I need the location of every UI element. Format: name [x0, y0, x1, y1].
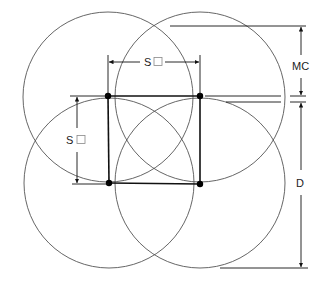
head-dot-bottom-left: [106, 180, 112, 186]
sprinkler-heads: [105, 93, 203, 187]
label-mc: MC: [292, 60, 309, 72]
spacing-square: [108, 96, 200, 184]
dimension-s-vertical: [70, 96, 109, 184]
head-dot-bottom-right: [197, 181, 203, 187]
label-d: D: [296, 177, 304, 189]
label-s-horizontal: S: [144, 56, 151, 68]
coverage-circles: [23, 12, 285, 268]
label-s-vertical: S: [66, 134, 73, 146]
spacing-diagram: S S MC D: [0, 0, 323, 281]
square-symbol-horizontal: [154, 58, 162, 66]
diagram-canvas: S S MC D: [0, 0, 323, 281]
square-symbol-vertical: [77, 136, 85, 144]
